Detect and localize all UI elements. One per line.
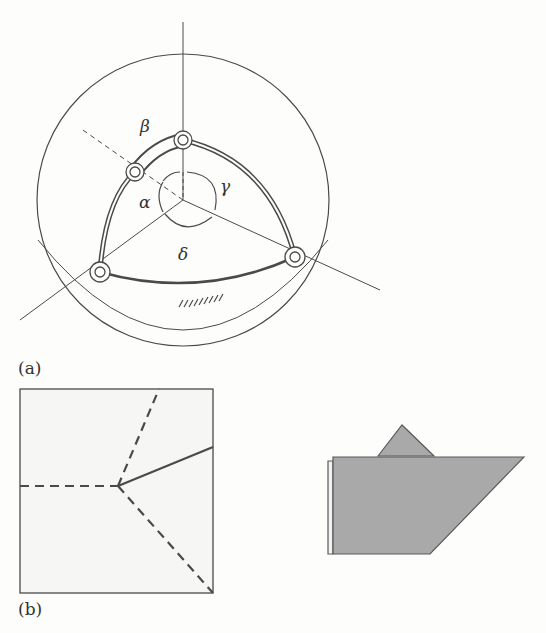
panel-b-crease-pattern	[20, 389, 213, 593]
link-right	[183, 140, 295, 257]
angle-arc-beta	[163, 172, 180, 181]
label-gamma: γ	[220, 176, 231, 196]
angle-arc-alpha	[159, 182, 163, 212]
label-beta: β	[139, 116, 150, 136]
joint-lower-left	[90, 262, 110, 282]
panel-b-label: (b)	[18, 599, 42, 619]
joint-top	[174, 131, 192, 149]
link-right-inner	[183, 140, 295, 257]
label-alpha: α	[139, 192, 151, 212]
ground-hatch	[179, 294, 223, 307]
panel-a-label: (a)	[18, 358, 41, 378]
angle-arc-delta	[165, 214, 212, 227]
paper-sheet	[20, 389, 213, 593]
folded-back-layer	[328, 461, 333, 554]
folded-body	[333, 457, 524, 554]
link-ground	[100, 257, 295, 283]
joint-upper-left	[126, 163, 144, 181]
figure-canvas: β α γ δ (a) (b)	[0, 0, 546, 633]
joint-lower-right	[285, 247, 305, 267]
folded-flap-top	[378, 425, 434, 456]
panel-a	[20, 22, 380, 346]
label-delta: δ	[178, 244, 188, 264]
panel-b-folded-shape	[328, 425, 524, 554]
